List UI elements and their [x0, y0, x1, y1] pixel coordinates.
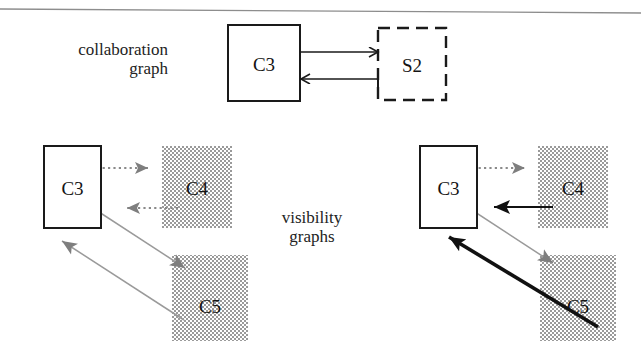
node-label-c3-left: C3 [44, 178, 101, 200]
figure-root: collaboration graph visibility graphs C3… [0, 0, 641, 357]
node-label-c3-collaboration: C3 [228, 54, 300, 76]
caption-collaboration-line1: collaboration [18, 40, 168, 59]
node-label-c3-right: C3 [420, 178, 477, 200]
top-rule [0, 9, 641, 13]
caption-collaboration-graph: collaboration graph [18, 40, 168, 78]
caption-visibility-line1: visibility [252, 208, 372, 227]
caption-visibility-line2: graphs [252, 227, 372, 246]
node-label-c4-left: C4 [162, 178, 232, 200]
node-label-c5-left: C5 [172, 296, 248, 318]
caption-visibility-graphs: visibility graphs [252, 208, 372, 246]
node-label-c5-right: C5 [540, 296, 616, 318]
caption-collaboration-line2: graph [18, 59, 168, 78]
node-label-c4-right: C4 [538, 178, 608, 200]
node-label-s2-collaboration: S2 [378, 55, 446, 77]
edge-left-c5-to-c3 [62, 241, 184, 320]
